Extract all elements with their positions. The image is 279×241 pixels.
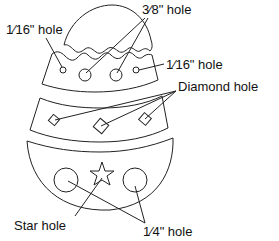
three-eighths-hole-right [110,69,122,81]
sixteenth-hole-right [133,67,139,73]
label-sixteenth-hole-left: 1⁄16" hole [6,23,63,36]
label-quarter-hole: 1⁄4" hole [143,225,192,238]
label-sixteenth-hole-right: 1⁄16" hole [166,58,223,71]
label-diamond-hole: Diamond hole [178,80,258,93]
three-eighths-hole-left [79,69,91,81]
sixteenth-hole-left [60,67,66,73]
quarter-hole-left [54,168,78,192]
upper-band-piece [42,52,158,92]
quarter-hole-right [123,168,147,192]
top-cap-piece [64,5,152,53]
label-star-hole: Star hole [14,219,66,232]
egg-diagram: 1⁄16" hole 3⁄8" hole 1⁄16" hole Diamond … [0,0,279,241]
label-three-eighths-hole: 3⁄8" hole [142,3,191,16]
